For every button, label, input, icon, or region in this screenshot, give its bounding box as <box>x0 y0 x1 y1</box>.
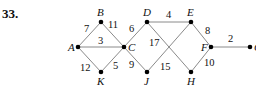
vertex-label-e: E <box>186 6 194 18</box>
vertex-label-h: H <box>186 75 196 87</box>
edge-weight-label: 15 <box>160 61 171 72</box>
vertex-f <box>209 45 214 50</box>
edge-weight-label: 12 <box>80 62 91 73</box>
edge-weight-label: 2 <box>228 33 233 44</box>
edge-weight-label: 9 <box>129 59 134 70</box>
edge-weight-label: 11 <box>108 19 118 30</box>
vertex-g <box>248 45 253 50</box>
vertex-label-c: C <box>128 41 136 53</box>
vertex-label-d: D <box>142 6 151 18</box>
edge-weight-label: 8 <box>205 25 210 36</box>
vertex-label-f: F <box>200 41 208 53</box>
vertex-label-k: K <box>96 75 105 87</box>
graph-diagram: 33. 711312569417158102 ABCKDEJHFG <box>0 0 256 100</box>
vertex-label-b: B <box>97 6 104 18</box>
vertex-label-g: G <box>254 41 256 53</box>
vertex-a <box>76 45 81 50</box>
vertex-label-a: A <box>67 41 75 53</box>
edge-weight-label: 4 <box>166 9 172 20</box>
vertex-e <box>189 20 194 25</box>
edge-weight-label: 10 <box>204 57 215 68</box>
edge-weight-label: 3 <box>98 35 103 46</box>
problem-number: 33. <box>2 6 18 22</box>
edge-weight-label: 7 <box>84 23 89 34</box>
vertex-c <box>122 45 127 50</box>
vertex-h <box>189 70 194 75</box>
vertex-b <box>99 20 104 25</box>
weighted-graph: 711312569417158102 ABCKDEJHFG <box>0 0 256 100</box>
edge-weight-label: 6 <box>129 23 134 34</box>
edge-weight-label: 5 <box>113 60 118 71</box>
vertex-label-j: J <box>144 75 150 87</box>
edge-weight-label: 17 <box>149 37 160 48</box>
vertex-k <box>99 70 104 75</box>
vertex-d <box>145 20 150 25</box>
vertex-j <box>145 70 150 75</box>
edge-weights: 711312569417158102 <box>80 9 233 73</box>
